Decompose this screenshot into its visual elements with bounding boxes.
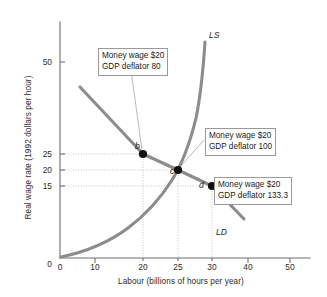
xtick-label-30: 30	[201, 262, 223, 272]
callout-box-d: Money wage $20 GDP deflator 133.3	[214, 177, 292, 205]
xtick-label-40: 40	[237, 262, 259, 272]
economics-labour-market-chart: 50 25 20 15 0 0 10 20 25 30 40 50 Real w…	[0, 0, 327, 297]
ytick-label-20: 20	[30, 165, 52, 175]
xtick-label-50: 50	[279, 262, 301, 272]
curve-label-ls: LS	[209, 30, 220, 40]
point-b	[139, 150, 147, 158]
ytick-label-50: 50	[30, 57, 52, 67]
curve-label-ld: LD	[216, 227, 227, 237]
point-c	[174, 166, 182, 174]
x-axis-title: Labour (billions of hours per year)	[118, 277, 244, 286]
y-axis-title: Real wage rate (1992 dollars per hour)	[24, 48, 33, 248]
xtick-label-10: 10	[84, 262, 106, 272]
ytick-label-15: 15	[30, 181, 52, 191]
ytick-label-25: 25	[30, 149, 52, 159]
callout-c-line1: Money wage $20	[209, 131, 272, 142]
point-label-b: b	[135, 141, 140, 151]
xtick-label-0: 0	[49, 262, 71, 272]
callout-d-line2: GDP deflator 133.3	[218, 191, 288, 202]
point-label-c: c	[170, 166, 174, 176]
callout-box-b: Money wage $20 GDP deflator 80	[98, 48, 168, 76]
axis-ticks	[60, 62, 290, 263]
grid-guides	[60, 154, 212, 258]
callout-d-line1: Money wage $20	[218, 180, 288, 191]
callout-c-line2: GDP deflator 100	[209, 142, 272, 153]
point-label-d: d	[199, 180, 204, 190]
xtick-label-20: 20	[132, 262, 154, 272]
callout-b-line1: Money wage $20	[102, 51, 164, 62]
callout-box-c: Money wage $20 GDP deflator 100	[205, 128, 276, 156]
callout-b-line2: GDP deflator 80	[102, 62, 164, 73]
leader-line-b	[131, 70, 142, 150]
xtick-label-25: 25	[167, 262, 189, 272]
